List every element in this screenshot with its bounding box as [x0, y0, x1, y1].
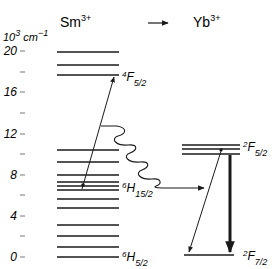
axis-tick-label: 16: [4, 85, 18, 99]
term-yb-2F72: 2F7/2: [242, 249, 267, 267]
axis-tick-label: 4: [10, 209, 17, 223]
term-sm-6H152: 6H15/2: [122, 181, 153, 199]
y-axis: 201612840: [3, 44, 25, 264]
energy-level-diagram: 103 cm−1 Sm3+ Yb3+ 201612840 4F5/2 6H15/…: [0, 0, 272, 269]
acceptor-ion-label: Yb3+: [193, 13, 220, 30]
axis-tick-label: 0: [10, 250, 17, 264]
term-yb-2F52: 2F5/2: [242, 140, 267, 158]
excitation-origin-dot: [81, 183, 85, 187]
axis-tick-label: 20: [3, 44, 18, 58]
energy-transfer-wavy-arrow: [101, 126, 204, 188]
sm-energy-levels: [57, 52, 119, 257]
excitation-arrow: [82, 77, 114, 189]
axis-tick-label: 8: [10, 168, 17, 182]
yb-thin-emission-arrow: [189, 148, 222, 252]
axis-unit-label: 103 cm−1: [3, 28, 48, 43]
donor-ion-label: Sm3+: [60, 13, 91, 30]
axis-tick-label: 12: [4, 127, 18, 141]
term-sm-4F52: 4F5/2: [122, 70, 146, 88]
yb-emission-origin-dot: [219, 148, 222, 151]
term-sm-6H52: 6H5/2: [122, 250, 148, 268]
